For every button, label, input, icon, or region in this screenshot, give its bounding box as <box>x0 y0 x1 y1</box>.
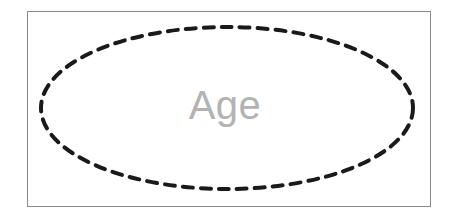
attribute-label: Age <box>0 82 450 128</box>
figure-root: Age <box>0 0 450 219</box>
